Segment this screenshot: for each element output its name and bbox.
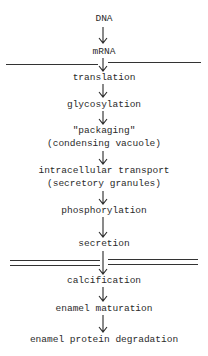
step-glycosylation: glycosylation: [0, 99, 208, 110]
arrow-down-icon: [98, 111, 108, 125]
step-intracellular-transport: intracellular transport: [0, 165, 208, 176]
step-mrna: mRNA: [0, 46, 208, 57]
arrow-down-icon: [98, 84, 108, 98]
step-dna: DNA: [0, 13, 208, 24]
divider-double-top: [108, 259, 198, 260]
arrow-down-icon: [98, 191, 108, 205]
step-calcification: calcification: [0, 275, 208, 286]
arrow-down-icon: [98, 151, 108, 165]
arrow-down-icon: [98, 315, 108, 333]
arrow-down-icon: [98, 251, 108, 275]
arrow-down-icon: [98, 217, 108, 238]
step-phosphorylation: phosphorylation: [0, 205, 208, 216]
divider-double-top: [10, 260, 100, 261]
divider-double-bottom: [108, 264, 198, 265]
divider-double-bottom: [10, 265, 100, 266]
arrow-down-icon: [98, 58, 108, 72]
step-secretion: secretion: [0, 238, 208, 249]
step-enamel-maturation: enamel maturation: [0, 303, 208, 314]
step-packaging: "packaging": [0, 125, 208, 136]
arrow-down-icon: [98, 27, 108, 44]
divider-single: [6, 64, 98, 65]
step-enamel-protein-degradation: enamel protein degradation: [0, 334, 208, 345]
step-packaging-note: (condensing vacuole): [0, 138, 208, 149]
step-transport-note: (secretory granules): [0, 178, 208, 189]
arrow-down-icon: [98, 287, 108, 302]
divider-single: [108, 62, 201, 63]
step-translation: translation: [0, 72, 208, 83]
